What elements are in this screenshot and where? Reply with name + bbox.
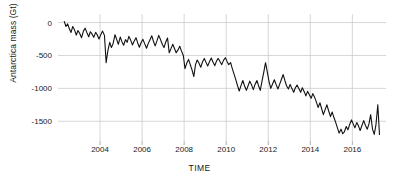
x-tick-label: 2016 <box>332 145 372 154</box>
y-tick-label: -1000 <box>0 84 52 93</box>
x-tick-label: 2006 <box>122 145 162 154</box>
y-tick-label: -500 <box>0 51 52 60</box>
x-tick-label: 2004 <box>80 145 120 154</box>
x-tick-label: 2014 <box>290 145 330 154</box>
x-tick-label: 2012 <box>248 145 288 154</box>
plot-area <box>0 0 399 183</box>
x-tick-label: 2008 <box>164 145 204 154</box>
y-tick-label: -1500 <box>0 117 52 126</box>
y-tick-label: 0 <box>0 18 52 27</box>
gridlines <box>58 14 386 141</box>
data-line-antarctica-mass <box>64 22 379 135</box>
x-axis-label: TIME <box>0 163 399 173</box>
x-tick-label: 2010 <box>206 145 246 154</box>
chart-container: Antarctica mass (Gt) TIME 0-500-1000-150… <box>0 0 399 183</box>
